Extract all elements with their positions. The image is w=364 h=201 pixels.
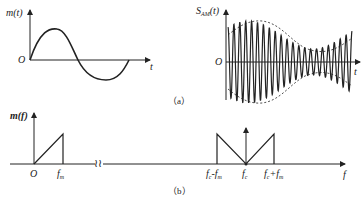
t-label-a-left: t [150,62,153,72]
origin-label-a-left: O [18,55,25,65]
origin-label-a-right: O [215,57,222,67]
t9: +f [269,168,279,179]
carrier-dot [245,163,248,166]
sine-wave [30,29,129,80]
fc-plus-fm-tick-label: fc+fm [264,169,283,180]
t10: m [279,174,283,180]
m-f-label: m(f) [10,111,28,121]
fc-tick-label: fc [242,169,247,180]
axis-break-symbol: ≀≀ [94,158,102,169]
sam-arg: (t) [210,5,219,16]
fm-sub: m [60,174,64,180]
am-signal-plot [226,10,360,103]
sam-sub: AM [201,11,210,17]
t6: c [245,174,248,180]
m-t-label: m(t) [6,8,23,18]
lower-envelope [228,72,352,103]
t-label-a-right: t [354,67,357,77]
origin-label-b: O [30,169,37,179]
caption-b: （b） [168,187,191,196]
sam-label: SAM(t) [196,6,219,17]
spectrum-plot [10,113,345,166]
t4: m [218,174,222,180]
f-label: f [343,170,346,180]
caption-a: （a） [168,97,190,106]
baseband-spectrum [34,134,63,164]
message-signal-plot [30,10,150,80]
fc-minus-fm-tick-label: fc-fm [206,169,222,180]
fm-tick-label: fm [57,169,64,180]
